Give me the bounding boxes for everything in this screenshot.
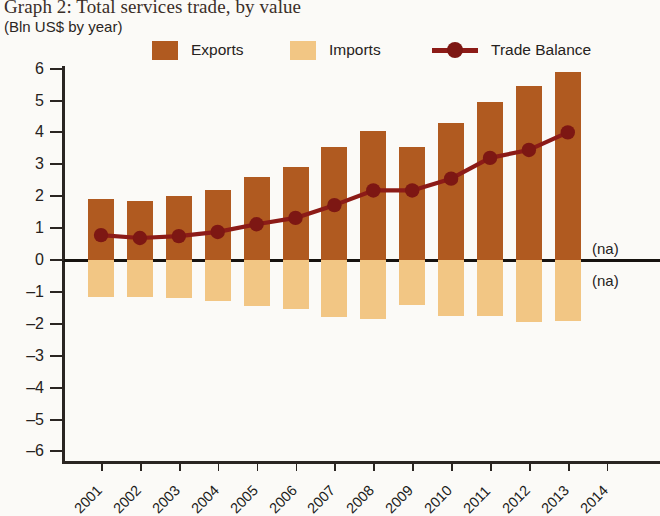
x-tick (412, 462, 414, 471)
bar-imports (477, 260, 503, 316)
x-tick (179, 462, 181, 471)
bar-imports (244, 260, 270, 306)
y-tick-label: 6 (12, 60, 44, 78)
x-tick (529, 462, 531, 471)
y-tick (50, 100, 64, 102)
x-tick-label: 2014 (577, 482, 611, 516)
y-tick-label: –5 (12, 411, 44, 429)
x-tick (451, 462, 453, 471)
y-tick (50, 227, 64, 229)
y-tick (50, 387, 64, 389)
y-tick (50, 450, 64, 452)
bar-exports (516, 86, 542, 260)
bar-exports (166, 196, 192, 260)
x-tick-label: 2009 (382, 482, 416, 516)
y-tick-label: –3 (12, 347, 44, 365)
x-tick-label: 2005 (227, 482, 261, 516)
bar-exports (244, 177, 270, 260)
y-tick (50, 419, 64, 421)
x-axis-line (62, 461, 660, 464)
x-tick-label: 2002 (110, 482, 144, 516)
bar-imports (321, 260, 347, 317)
x-tick (334, 462, 336, 471)
na-label-exports: (na) (592, 240, 619, 257)
y-tick-label: 4 (12, 123, 44, 141)
bar-imports (438, 260, 464, 316)
x-tick-label: 2012 (499, 482, 533, 516)
x-tick-label: 2004 (188, 482, 222, 516)
bar-exports (555, 72, 581, 260)
y-tick-label: 5 (12, 92, 44, 110)
x-tick-label: 2011 (460, 483, 493, 516)
bar-exports (477, 102, 503, 260)
x-tick-label: 2007 (304, 482, 338, 516)
y-tick-label: 2 (12, 187, 44, 205)
x-tick-label: 2008 (343, 482, 377, 516)
bar-imports (127, 260, 153, 297)
y-tick-label: 3 (12, 155, 44, 173)
bar-exports (205, 190, 231, 260)
bar-exports (438, 123, 464, 260)
x-tick-label: 2006 (266, 482, 300, 516)
bar-imports (516, 260, 542, 322)
y-tick (50, 323, 64, 325)
bar-imports (360, 260, 386, 319)
bar-imports (399, 260, 425, 305)
bar-imports (166, 260, 192, 298)
y-tick-label: –1 (12, 283, 44, 301)
y-tick-label: 0 (12, 251, 44, 269)
x-tick-label: 2010 (421, 482, 455, 516)
bar-exports (88, 199, 114, 260)
x-tick (296, 462, 298, 471)
bar-exports (283, 167, 309, 260)
x-tick-label: 2001 (71, 482, 105, 516)
y-axis-line (62, 66, 65, 462)
y-tick-label: 1 (12, 219, 44, 237)
x-tick (607, 462, 609, 471)
x-tick (101, 462, 103, 471)
y-tick (50, 195, 64, 197)
bar-exports (127, 201, 153, 260)
x-tick (490, 462, 492, 471)
y-tick-label: –6 (12, 442, 44, 460)
x-tick (218, 462, 220, 471)
y-tick (50, 259, 64, 261)
x-tick-label: 2003 (149, 482, 183, 516)
bar-imports (205, 260, 231, 301)
x-tick-label: 2013 (538, 482, 572, 516)
y-tick (50, 291, 64, 293)
x-tick (257, 462, 259, 471)
y-tick (50, 163, 64, 165)
bar-exports (360, 131, 386, 260)
bar-imports (283, 260, 309, 309)
bar-imports (88, 260, 114, 297)
bar-exports (321, 147, 347, 260)
y-tick-label: –4 (12, 379, 44, 397)
y-tick-label: –2 (12, 315, 44, 333)
x-tick (568, 462, 570, 471)
y-tick (50, 355, 64, 357)
bar-imports (555, 260, 581, 321)
x-tick (140, 462, 142, 471)
bar-exports (399, 147, 425, 260)
y-tick (50, 131, 64, 133)
na-label-imports: (na) (592, 272, 619, 289)
x-tick (373, 462, 375, 471)
y-tick (50, 68, 64, 70)
